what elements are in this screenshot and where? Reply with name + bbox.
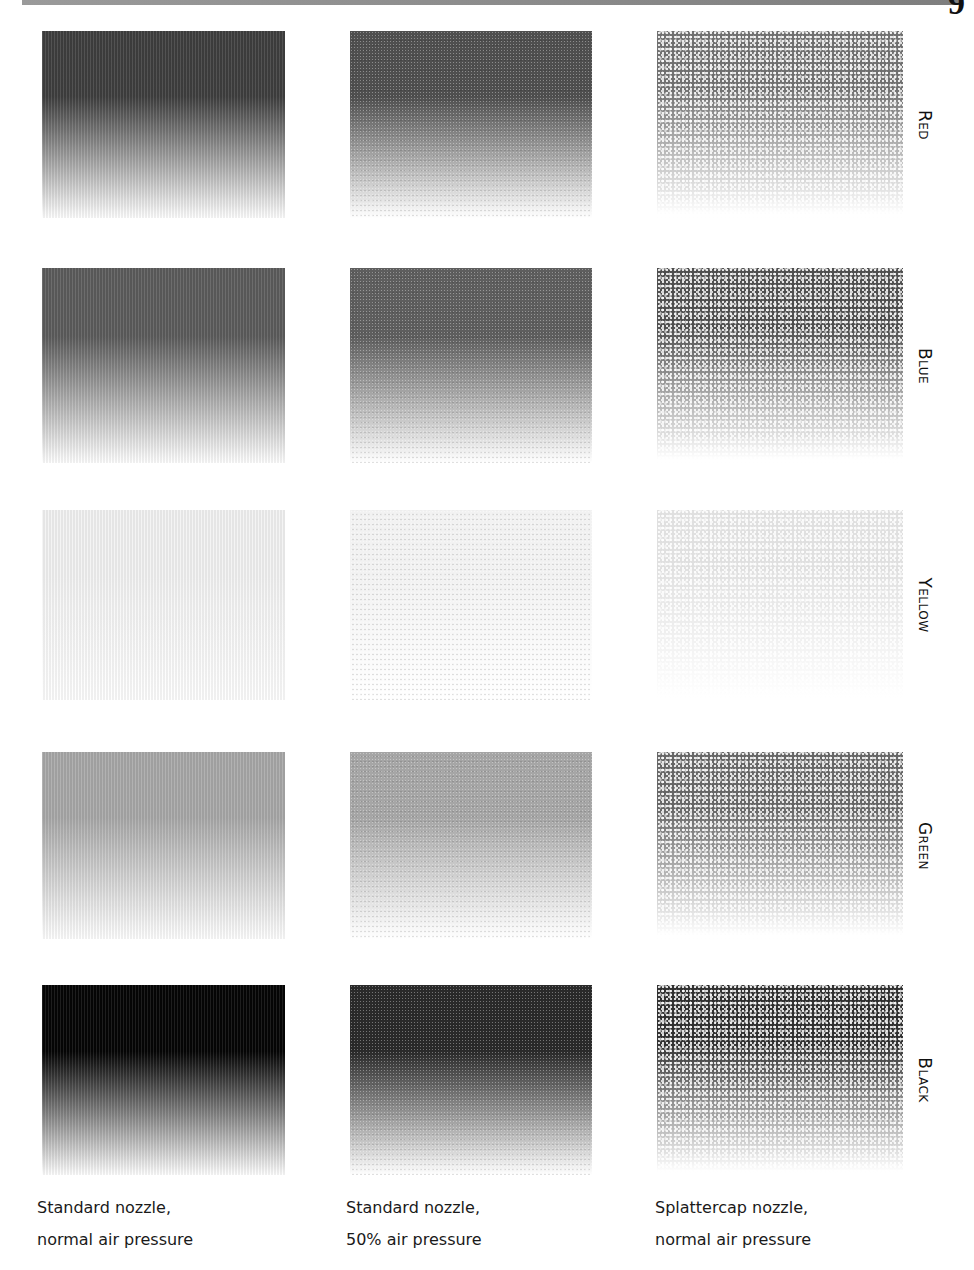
spray-texture <box>657 31 903 218</box>
swatch-blue-standard-normal <box>42 268 285 463</box>
swatch-red-standard-half <box>350 31 592 218</box>
swatch-red-standard-normal <box>42 31 285 218</box>
spray-texture <box>42 31 285 218</box>
swatch-black-standard-half <box>350 985 592 1175</box>
row-label-text: Green <box>915 821 935 869</box>
spray-texture <box>657 268 903 463</box>
row-label-text: Yellow <box>915 577 935 632</box>
spray-texture <box>350 268 592 463</box>
swatch-red-splattercap-normal <box>657 31 903 218</box>
spray-texture <box>657 510 903 700</box>
swatch-green-standard-normal <box>42 752 285 939</box>
row-label-black: Black <box>905 985 945 1175</box>
caption-line: 50% air pressure <box>346 1224 482 1256</box>
caption-standard-normal: Standard nozzle, normal air pressure <box>37 1192 193 1256</box>
swatch-yellow-standard-normal <box>42 510 285 700</box>
swatch-black-standard-normal <box>42 985 285 1175</box>
swatch-yellow-standard-half <box>350 510 592 700</box>
spray-texture <box>350 985 592 1175</box>
row-label-green: Green <box>905 752 945 939</box>
spray-texture <box>42 268 285 463</box>
caption-line: normal air pressure <box>37 1224 193 1256</box>
caption-line: normal air pressure <box>655 1224 811 1256</box>
swatch-green-splattercap-normal <box>657 752 903 939</box>
spray-texture <box>42 985 285 1175</box>
page-number: 9 <box>948 0 965 22</box>
spray-texture <box>42 752 285 939</box>
row-label-text: Black <box>915 1057 935 1102</box>
swatch-blue-splattercap-normal <box>657 268 903 463</box>
row-label-red: Red <box>905 31 945 218</box>
caption-line: Standard nozzle, <box>346 1192 482 1224</box>
caption-line: Standard nozzle, <box>37 1192 193 1224</box>
row-label-text: Blue <box>915 347 935 383</box>
swatch-black-splattercap-normal <box>657 985 903 1175</box>
row-label-yellow: Yellow <box>905 510 945 700</box>
swatch-green-standard-half <box>350 752 592 939</box>
spray-texture <box>350 31 592 218</box>
spray-texture <box>350 510 592 700</box>
spray-texture <box>657 985 903 1175</box>
caption-standard-half: Standard nozzle, 50% air pressure <box>346 1192 482 1256</box>
caption-line: Splattercap nozzle, <box>655 1192 811 1224</box>
row-label-text: Red <box>915 109 935 139</box>
header-rule <box>22 0 962 5</box>
row-label-blue: Blue <box>905 268 945 463</box>
spray-texture <box>657 752 903 939</box>
swatch-yellow-splattercap-normal <box>657 510 903 700</box>
caption-splattercap-normal: Splattercap nozzle, normal air pressure <box>655 1192 811 1256</box>
spray-texture <box>42 510 285 700</box>
swatch-blue-standard-half <box>350 268 592 463</box>
spray-texture <box>350 752 592 939</box>
